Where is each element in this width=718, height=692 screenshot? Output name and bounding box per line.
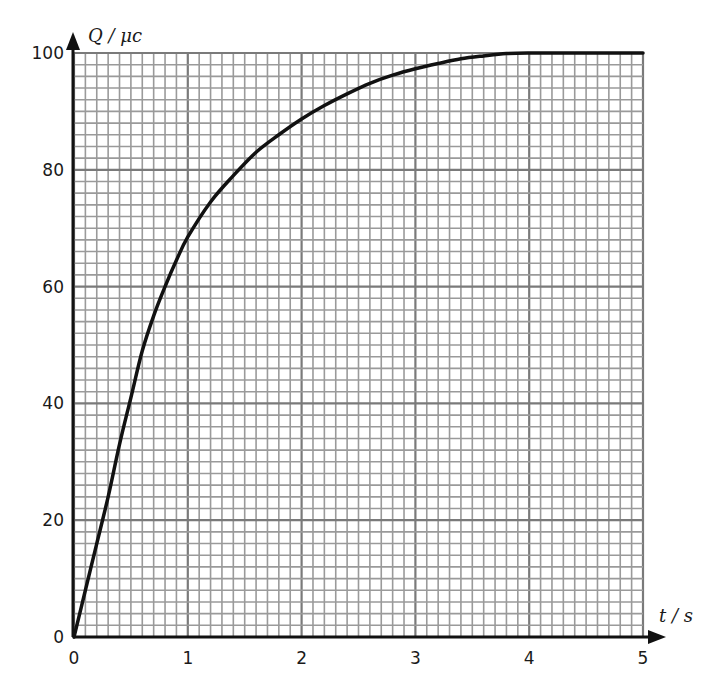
x-tick-label: 1	[182, 648, 193, 668]
y-axis-label: Q / μc	[88, 25, 142, 46]
x-tick-label: 2	[296, 648, 307, 668]
x-tick-label: 4	[524, 648, 535, 668]
chart: 012345 020406080100 Q / μc t / s	[0, 0, 718, 692]
x-axis-label: t / s	[659, 605, 693, 626]
y-tick-label: 80	[42, 160, 64, 180]
x-tick-label: 0	[69, 648, 80, 668]
x-tick-labels: 012345	[69, 648, 649, 668]
x-tick-label: 5	[638, 648, 649, 668]
y-tick-label: 20	[42, 510, 64, 530]
grid	[74, 53, 643, 637]
x-tick-label: 3	[410, 648, 421, 668]
y-tick-label: 100	[32, 43, 64, 63]
y-tick-label: 60	[42, 277, 64, 297]
y-tick-label: 0	[53, 627, 64, 647]
y-tick-labels: 020406080100	[32, 43, 64, 647]
y-axis-arrow-icon	[66, 32, 80, 50]
y-tick-label: 40	[42, 393, 64, 413]
x-axis-arrow-icon	[648, 630, 666, 644]
